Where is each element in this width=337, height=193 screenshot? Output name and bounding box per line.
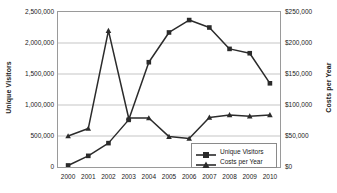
left-axis-tick: 0 bbox=[12, 163, 54, 170]
left-axis-tick: 1,000,000 bbox=[12, 101, 54, 108]
legend-swatch-square-icon bbox=[195, 146, 217, 156]
dual-axis-line-chart: Unique Visitors Costs per Year Unique Vi… bbox=[0, 0, 337, 193]
left-axis-title: Unique Visitors bbox=[5, 53, 12, 123]
right-axis-title: Costs per Year bbox=[325, 53, 332, 123]
right-axis-tick: $150,000 bbox=[285, 70, 327, 77]
legend-swatch-triangle-icon bbox=[195, 156, 217, 166]
legend-item-costs-per-year: Costs per Year bbox=[195, 156, 273, 166]
right-axis-tick: $50,000 bbox=[285, 132, 327, 139]
legend-label: Unique Visitors bbox=[217, 148, 264, 155]
legend-label: Costs per Year bbox=[217, 158, 263, 165]
right-axis-tick: $250,000 bbox=[285, 8, 327, 15]
left-axis-tick: 2,000,000 bbox=[12, 39, 54, 46]
chart-legend: Unique Visitors Costs per Year bbox=[191, 143, 277, 168]
x-axis-tick: 2010 bbox=[257, 173, 283, 180]
right-axis-tick: $100,000 bbox=[285, 101, 327, 108]
right-axis-tick: $0 bbox=[285, 163, 327, 170]
left-axis-tick: 1,500,000 bbox=[12, 70, 54, 77]
legend-item-unique-visitors: Unique Visitors bbox=[195, 146, 273, 156]
left-axis-tick: 500,000 bbox=[12, 132, 54, 139]
right-axis-tick: $200,000 bbox=[285, 39, 327, 46]
left-axis-tick: 2,500,000 bbox=[12, 8, 54, 15]
